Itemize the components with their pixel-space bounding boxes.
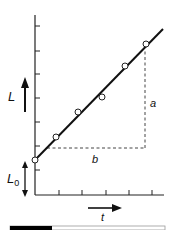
fit-line [35,29,163,160]
progress-bar-fill [10,226,52,230]
x-axis-label: t [101,211,105,223]
double-arrow-icon [22,161,28,197]
rise-label: a [150,97,156,109]
x-axis-ticks [59,190,152,195]
y-axis-label: L [8,89,15,104]
y-axis-ticks [35,26,40,170]
linear-fit-diagram: L L0 a b t [0,0,173,230]
data-point [143,41,149,47]
right-arrow-icon [88,204,122,212]
up-arrow-icon [21,77,29,112]
data-point [99,94,105,100]
data-point [75,109,81,115]
progress-bar [10,226,165,230]
data-point [32,157,38,163]
data-point [53,134,59,140]
intercept-label: L0 [7,171,19,188]
data-point [122,63,128,69]
run-label: b [92,153,98,165]
